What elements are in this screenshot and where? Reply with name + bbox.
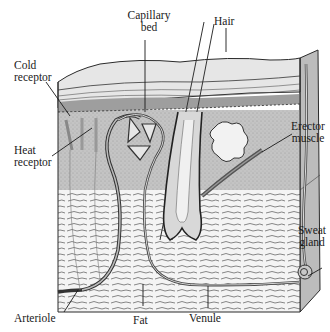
label-heat-receptor-line1: Heat — [14, 144, 52, 156]
label-capillary-bed-line1: Capillary — [123, 9, 175, 21]
label-sweat-gland: Sweat gland — [294, 224, 330, 248]
label-cold-receptor-line2: receptor — [14, 71, 52, 83]
skin-cross-section-diagram: Capillary bed Hair Cold receptor Heat re… — [0, 0, 330, 332]
label-arteriole-line1: Arteriole — [14, 312, 56, 324]
label-fat-line1: Fat — [133, 314, 148, 326]
label-venule-line1: Venule — [189, 312, 221, 324]
label-arteriole: Arteriole — [14, 312, 56, 324]
label-hair-line1: Hair — [214, 15, 234, 27]
label-heat-receptor: Heat receptor — [14, 144, 52, 168]
label-fat: Fat — [133, 314, 148, 326]
label-erector-muscle: Erector muscle — [286, 120, 330, 144]
label-sweat-gland-line2: gland — [294, 236, 330, 248]
label-venule: Venule — [189, 312, 221, 324]
label-sweat-gland-line1: Sweat — [294, 224, 330, 236]
label-capillary-bed-line2: bed — [123, 21, 175, 33]
label-cold-receptor-line1: Cold — [14, 59, 52, 71]
label-cold-receptor: Cold receptor — [14, 59, 52, 83]
label-erector-muscle-line1: Erector — [286, 120, 330, 132]
label-hair: Hair — [214, 15, 234, 27]
label-heat-receptor-line2: receptor — [14, 156, 52, 168]
label-capillary-bed: Capillary bed — [123, 9, 175, 33]
label-erector-muscle-line2: muscle — [286, 132, 330, 144]
